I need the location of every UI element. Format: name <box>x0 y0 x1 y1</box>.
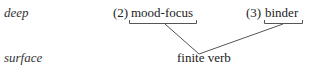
bracket-binder <box>265 20 303 24</box>
connector-binder <box>199 24 283 54</box>
bracket-mood-focus <box>130 20 197 24</box>
connector-lines <box>0 0 322 72</box>
connector-mood-focus <box>165 24 199 54</box>
